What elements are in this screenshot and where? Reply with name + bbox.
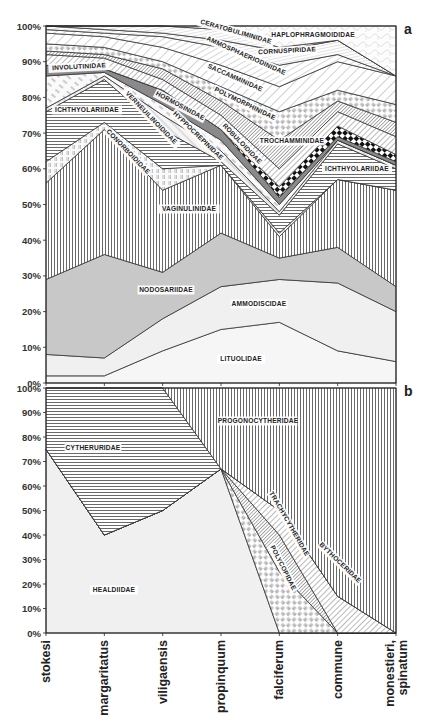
x-category-label: commune bbox=[331, 640, 345, 699]
svg-text:HAPLOPHRAGMOIDIDAE: HAPLOPHRAGMOIDIDAE bbox=[271, 31, 355, 38]
svg-text:HEALDIIDAE: HEALDIIDAE bbox=[93, 586, 136, 593]
svg-text:TROCHAMMINIDAE: TROCHAMMINIDAE bbox=[260, 137, 325, 144]
area-label: PROGONOCYTHERIDAE bbox=[218, 417, 299, 426]
x-category-label: margaritatus bbox=[97, 640, 111, 716]
svg-text:AMMODISCIDAE: AMMODISCIDAE bbox=[232, 300, 287, 307]
y-tick-label: 60% bbox=[22, 481, 42, 492]
x-category-label: monestieri, bbox=[383, 640, 397, 707]
area-label: NODOSARIIDAE bbox=[138, 286, 195, 295]
x-category-label: viligaensis bbox=[156, 640, 170, 704]
y-tick-label: 40% bbox=[22, 530, 42, 541]
svg-text:VAGINULINIDAE: VAGINULINIDAE bbox=[162, 205, 217, 212]
y-tick-label: 90% bbox=[22, 407, 42, 418]
area-label: AMMODISCIDAE bbox=[231, 300, 288, 309]
svg-text:PROGONOCYTHERIDAE: PROGONOCYTHERIDAE bbox=[218, 417, 299, 424]
area-label: CYTHERURIDAE bbox=[65, 444, 122, 453]
y-tick-label: 80% bbox=[22, 432, 42, 443]
y-tick-label: 10% bbox=[22, 342, 42, 353]
panel-letter: b bbox=[404, 383, 413, 399]
panel-a-foraminifera bbox=[46, 26, 396, 383]
y-tick-label: 100% bbox=[17, 383, 42, 394]
y-tick-label: 50% bbox=[22, 199, 42, 210]
x-category-label: stokesi bbox=[39, 640, 53, 683]
x-category-label: spinatum bbox=[396, 640, 410, 696]
y-tick-label: 70% bbox=[22, 128, 42, 139]
y-tick-label: 40% bbox=[22, 235, 42, 246]
y-tick-label: 70% bbox=[22, 456, 42, 467]
y-tick-label: 50% bbox=[22, 505, 42, 516]
y-tick-label: 100% bbox=[17, 21, 42, 32]
y-tick-label: 20% bbox=[22, 306, 42, 317]
y-tick-label: 60% bbox=[22, 163, 42, 174]
y-tick-label: 80% bbox=[22, 92, 42, 103]
y-tick-label: 10% bbox=[22, 603, 42, 614]
area-label: HAPLOPHRAGMOIDIDAE bbox=[271, 31, 355, 40]
svg-text:CYTHERURIDAE: CYTHERURIDAE bbox=[66, 444, 121, 451]
stacked-area-figure: 0%10%20%30%40%50%60%70%80%90%100%a0%10%2… bbox=[0, 0, 424, 723]
y-tick-label: 0% bbox=[27, 628, 41, 639]
y-tick-label: 20% bbox=[22, 579, 42, 590]
area-label: TROCHAMMINIDAE bbox=[259, 137, 325, 146]
svg-text:LITUOLIDAE: LITUOLIDAE bbox=[220, 355, 262, 362]
area-label: VAGINULINIDAE bbox=[158, 205, 219, 214]
area-label: ICHTHYOLARIIDAE bbox=[322, 165, 392, 174]
y-tick-label: 30% bbox=[22, 270, 42, 281]
svg-text:NODOSARIIDAE: NODOSARIIDAE bbox=[139, 286, 193, 293]
panel-letter: a bbox=[404, 21, 412, 37]
svg-text:ICHTHYOLARIIDAE: ICHTHYOLARIIDAE bbox=[325, 165, 389, 172]
y-tick-label: 90% bbox=[22, 56, 42, 67]
chart-canvas: 0%10%20%30%40%50%60%70%80%90%100%a0%10%2… bbox=[0, 0, 424, 723]
x-category-label: falciferum bbox=[272, 640, 286, 700]
area-label: HEALDIIDAE bbox=[90, 586, 138, 595]
area-label: ICHTHYOLARIIDAE bbox=[52, 106, 122, 115]
svg-text:ICHTHYOLARIIDAE: ICHTHYOLARIIDAE bbox=[55, 106, 119, 113]
area-label: LITUOLIDAE bbox=[217, 355, 265, 364]
y-tick-label: 30% bbox=[22, 554, 42, 565]
x-category-label: propinquum bbox=[214, 640, 228, 713]
